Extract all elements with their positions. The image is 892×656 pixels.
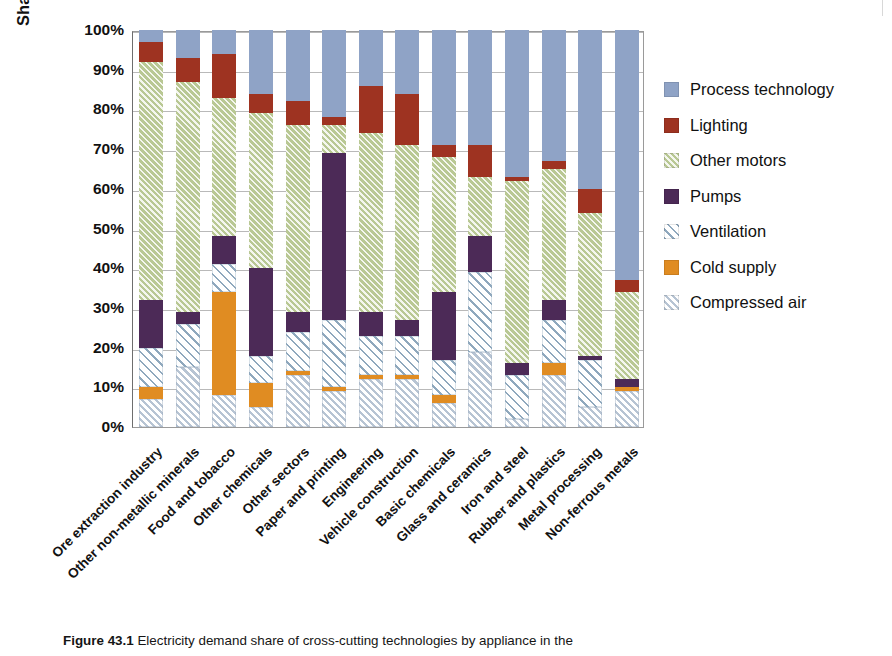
bar-segment[interactable]: [176, 312, 200, 324]
bar-segment[interactable]: [212, 236, 236, 264]
bar-segment[interactable]: [505, 375, 529, 419]
bar-segment[interactable]: [505, 30, 529, 177]
bar-segment[interactable]: [542, 363, 566, 375]
bar-segment[interactable]: [468, 236, 492, 272]
bar-segment[interactable]: [212, 98, 236, 237]
bar-segment[interactable]: [432, 30, 456, 145]
bar-segment[interactable]: [176, 58, 200, 82]
bar-segment[interactable]: [212, 30, 236, 54]
bar-column[interactable]: [176, 32, 200, 427]
bar-segment[interactable]: [359, 312, 383, 336]
bar-segment[interactable]: [139, 42, 163, 62]
bar-segment[interactable]: [395, 30, 419, 94]
bar-segment[interactable]: [212, 264, 236, 292]
bar-segment[interactable]: [505, 419, 529, 427]
bar-segment[interactable]: [139, 399, 163, 427]
bar-segment[interactable]: [505, 181, 529, 364]
bar-column[interactable]: [432, 32, 456, 427]
bar-segment[interactable]: [322, 125, 346, 153]
bar-segment[interactable]: [322, 30, 346, 117]
bar-segment[interactable]: [542, 169, 566, 300]
bar-segment[interactable]: [542, 161, 566, 169]
legend-item[interactable]: Pumps: [664, 179, 888, 215]
bar-segment[interactable]: [139, 30, 163, 42]
bar-segment[interactable]: [139, 62, 163, 300]
bar-segment[interactable]: [139, 300, 163, 348]
legend-item[interactable]: Ventilation: [664, 214, 888, 250]
bar-segment[interactable]: [578, 360, 602, 408]
bar-segment[interactable]: [286, 371, 310, 375]
bar-segment[interactable]: [249, 94, 273, 114]
bar-segment[interactable]: [359, 133, 383, 312]
bar-segment[interactable]: [395, 336, 419, 376]
bar-segment[interactable]: [395, 379, 419, 427]
bar-segment[interactable]: [578, 407, 602, 427]
bar-segment[interactable]: [542, 300, 566, 320]
bar-segment[interactable]: [322, 391, 346, 427]
bar-segment[interactable]: [432, 292, 456, 359]
bar-segment[interactable]: [249, 113, 273, 268]
bar-segment[interactable]: [505, 363, 529, 375]
bar-segment[interactable]: [615, 292, 639, 379]
bar-segment[interactable]: [249, 356, 273, 384]
bar-segment[interactable]: [176, 30, 200, 58]
legend-item[interactable]: Compressed air: [664, 285, 888, 321]
bar-segment[interactable]: [468, 145, 492, 177]
bar-segment[interactable]: [359, 375, 383, 379]
bar-segment[interactable]: [578, 189, 602, 213]
bar-segment[interactable]: [542, 30, 566, 161]
bar-column[interactable]: [286, 32, 310, 427]
bar-segment[interactable]: [395, 94, 419, 146]
bar-segment[interactable]: [578, 356, 602, 360]
bar-segment[interactable]: [578, 30, 602, 189]
bar-segment[interactable]: [176, 367, 200, 427]
bar-segment[interactable]: [322, 387, 346, 391]
bar-segment[interactable]: [249, 383, 273, 407]
bar-segment[interactable]: [432, 157, 456, 292]
bar-segment[interactable]: [432, 360, 456, 396]
bar-column[interactable]: [395, 32, 419, 427]
bar-segment[interactable]: [212, 292, 236, 395]
bar-column[interactable]: [212, 32, 236, 427]
bar-column[interactable]: [578, 32, 602, 427]
bar-segment[interactable]: [212, 54, 236, 98]
bar-segment[interactable]: [286, 332, 310, 372]
bar-segment[interactable]: [359, 30, 383, 86]
bar-segment[interactable]: [212, 395, 236, 427]
bar-segment[interactable]: [359, 336, 383, 376]
bar-column[interactable]: [505, 32, 529, 427]
bar-segment[interactable]: [176, 324, 200, 368]
bar-segment[interactable]: [139, 387, 163, 399]
bar-segment[interactable]: [432, 403, 456, 427]
bar-segment[interactable]: [395, 145, 419, 320]
bar-segment[interactable]: [432, 145, 456, 157]
bar-column[interactable]: [615, 32, 639, 427]
bar-segment[interactable]: [359, 379, 383, 427]
bar-segment[interactable]: [249, 268, 273, 355]
bar-segment[interactable]: [322, 320, 346, 387]
bar-segment[interactable]: [176, 82, 200, 312]
bar-segment[interactable]: [286, 375, 310, 427]
bar-segment[interactable]: [615, 30, 639, 280]
bar-segment[interactable]: [615, 280, 639, 292]
bar-column[interactable]: [322, 32, 346, 427]
bar-segment[interactable]: [542, 320, 566, 364]
bar-segment[interactable]: [395, 375, 419, 379]
bar-column[interactable]: [542, 32, 566, 427]
bar-segment[interactable]: [322, 153, 346, 320]
bar-segment[interactable]: [615, 391, 639, 427]
bar-segment[interactable]: [286, 30, 310, 101]
bar-segment[interactable]: [286, 312, 310, 332]
bar-segment[interactable]: [286, 125, 310, 312]
bar-segment[interactable]: [615, 387, 639, 391]
bar-segment[interactable]: [505, 177, 529, 181]
legend-item[interactable]: Lighting: [664, 108, 888, 144]
bar-segment[interactable]: [468, 30, 492, 145]
bar-segment[interactable]: [432, 395, 456, 403]
bar-segment[interactable]: [468, 352, 492, 427]
bar-segment[interactable]: [139, 348, 163, 388]
bar-segment[interactable]: [249, 407, 273, 427]
bar-column[interactable]: [249, 32, 273, 427]
bar-segment[interactable]: [542, 375, 566, 427]
bar-segment[interactable]: [578, 213, 602, 356]
